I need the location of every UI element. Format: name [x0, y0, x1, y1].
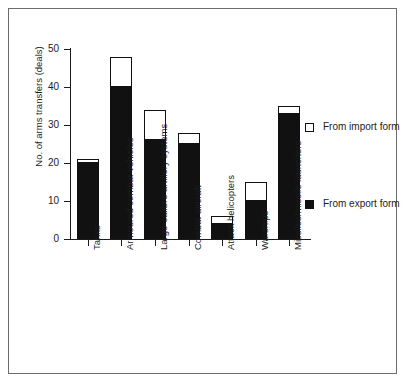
x-axis-tick — [88, 240, 89, 246]
y-axis-tick-20 — [64, 163, 70, 164]
y-axis-tick-0 — [64, 239, 70, 240]
y-axis-tick-label: 20 — [31, 158, 59, 168]
legend-item-export: From export form — [305, 199, 400, 209]
x-axis-category-label: Missiles/missile launchers — [293, 141, 303, 250]
x-axis-tick — [121, 240, 122, 246]
bar-segment-import — [178, 133, 200, 144]
y-axis-tick-10 — [64, 201, 70, 202]
x-axis-category-label: Tanks — [92, 225, 102, 250]
x-axis-category-label: Warships — [260, 211, 270, 250]
y-axis-tick-label: 30 — [31, 120, 59, 130]
legend-item-label: From import form — [323, 122, 400, 132]
y-axis-tick-label: 0 — [31, 234, 59, 244]
bar-segment-import — [278, 106, 300, 114]
bar-segment-import — [110, 57, 132, 87]
y-axis-tick-30 — [64, 125, 70, 126]
x-axis-category-label: Armoured combat vehicles — [125, 138, 135, 250]
x-axis-tick — [256, 240, 257, 246]
bar-segment-import — [245, 182, 267, 201]
x-axis-tick — [222, 240, 223, 246]
x-axis-tick — [189, 240, 190, 246]
y-axis-tick-label: 40 — [31, 82, 59, 92]
x-axis-category-label: Large-calibre artillery systems — [159, 124, 169, 250]
y-axis-tick-label: 10 — [31, 196, 59, 206]
legend-item-label: From export form — [323, 199, 400, 209]
x-axis-category-label: Combat aircraft — [193, 185, 203, 250]
y-axis-tick-label: 50 — [31, 44, 59, 54]
filled-square-icon — [305, 200, 314, 209]
plot-area — [71, 49, 306, 239]
x-axis-tick — [155, 240, 156, 246]
y-axis-tick-40 — [64, 87, 70, 88]
figure-frame: No. of arms transfers (deals) 5040302010… — [8, 8, 397, 374]
y-axis-tick-50 — [64, 49, 70, 50]
x-axis-tick — [289, 240, 290, 246]
legend-item-import: From import form — [305, 122, 400, 132]
x-axis-category-label: Attack helicopters — [226, 175, 236, 250]
hollow-square-icon — [305, 123, 314, 132]
